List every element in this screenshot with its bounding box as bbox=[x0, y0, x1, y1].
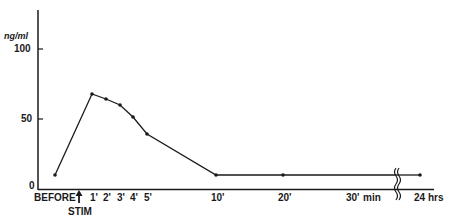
x-label-30: 30' bbox=[346, 193, 360, 203]
x-label-1: 1' bbox=[90, 193, 98, 203]
x-label-before: BEFORE bbox=[34, 193, 76, 203]
x-label-min: min bbox=[363, 193, 381, 203]
data-line bbox=[55, 94, 396, 175]
x-label-3: 3' bbox=[117, 193, 125, 203]
x-label-5: 5' bbox=[144, 193, 152, 203]
y-tick-label-0: 0 bbox=[29, 181, 35, 191]
x-label-stim: STIM bbox=[68, 207, 92, 217]
x-label-24hrs: 24 hrs bbox=[414, 193, 443, 203]
y-axis-unit: ng/ml bbox=[4, 31, 28, 41]
y-tick-label-100: 100 bbox=[14, 44, 31, 54]
x-label-2: 2' bbox=[103, 193, 111, 203]
chart-canvas bbox=[0, 0, 451, 224]
x-label-20: 20' bbox=[278, 193, 292, 203]
y-tick-label-50: 50 bbox=[21, 114, 32, 124]
x-label-4: 4' bbox=[130, 193, 138, 203]
data-markers bbox=[53, 92, 422, 177]
x-label-10: 10' bbox=[211, 193, 225, 203]
